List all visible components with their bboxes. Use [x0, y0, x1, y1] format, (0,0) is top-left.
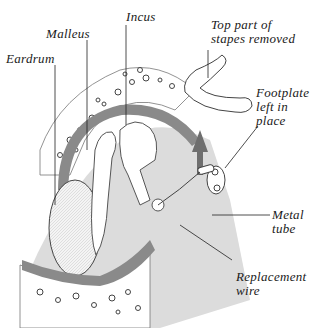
removed-stapes — [184, 55, 252, 112]
label-eardrum: Eardrum — [6, 52, 55, 66]
label-malleus: Malleus — [46, 27, 90, 41]
ear-diagram: Eardrum Malleus Incus Top part of stapes… — [0, 0, 313, 328]
label-metal-tube: Metal tube — [272, 208, 304, 236]
label-replacement-wire: Replacement wire — [236, 270, 306, 298]
label-stapes-removed: Top part of stapes removed — [211, 18, 295, 46]
label-incus: Incus — [126, 10, 156, 24]
label-footplate: Footplate left in place — [256, 86, 309, 128]
